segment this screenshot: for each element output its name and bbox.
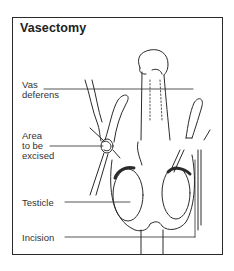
leader-lines <box>44 89 195 237</box>
right-vas-deferens <box>186 99 202 138</box>
vasectomy-illustration <box>0 0 234 271</box>
excision-clamp <box>90 128 120 195</box>
right-testicle <box>162 167 190 219</box>
penis-shaft <box>137 50 170 165</box>
left-testicle <box>113 167 143 221</box>
right-spermatic-cord <box>170 130 210 230</box>
